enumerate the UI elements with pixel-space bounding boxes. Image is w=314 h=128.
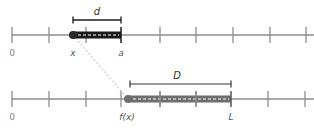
length-label-D: D: [173, 70, 181, 81]
point-label-x: x: [69, 48, 76, 58]
point-label-a: a: [118, 48, 124, 58]
point-fx-dot: [124, 95, 132, 103]
origin-label-top: 0: [9, 48, 15, 58]
top-segment-x-to-a: [69, 27, 121, 43]
bottom-segment-fx-to-L: [124, 91, 231, 107]
length-bracket-d: [73, 17, 121, 24]
bottom-number-line: D 0 f(x) L: [9, 70, 314, 122]
origin-label-bottom: 0: [9, 112, 15, 122]
length-bracket-D: [130, 81, 231, 88]
top-number-line: d 0 x a: [9, 6, 314, 58]
number-line-diagram: d 0 x a D: [0, 0, 314, 128]
point-x-dot: [69, 31, 77, 39]
point-label-L: L: [228, 112, 233, 122]
length-label-d: d: [94, 6, 101, 17]
mapping-connector: [73, 35, 128, 99]
point-label-fx: f(x): [119, 112, 135, 122]
